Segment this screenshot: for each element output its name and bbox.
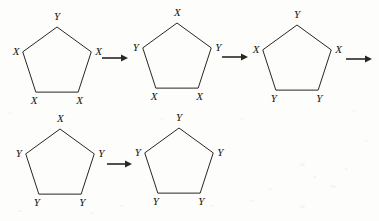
- arrow-3: [346, 55, 372, 62]
- vertex-label-top: Y: [54, 11, 60, 22]
- arrow-head-icon: [365, 55, 372, 62]
- vertex-label-left: Y: [135, 147, 141, 158]
- vertex-label-bottom-right: X: [76, 95, 83, 106]
- vertex-label-left: Y: [133, 42, 139, 53]
- arrow-head-icon: [241, 53, 248, 60]
- pentagon-outline: [263, 25, 331, 90]
- paper-speck: [268, 188, 272, 190]
- vertex-label-left: X: [13, 46, 20, 57]
- arrow-4: [107, 160, 132, 167]
- pentagon-outline: [26, 129, 94, 194]
- vertex-label-right: Y: [215, 42, 221, 53]
- vertex-label-bottom-right: Y: [198, 196, 204, 207]
- vertex-label-right: X: [335, 44, 342, 55]
- arrow-2: [222, 53, 248, 60]
- paper-speck: [8, 112, 12, 114]
- vertex-label-right: Y: [98, 148, 104, 159]
- vertex-label-bottom-left: X: [31, 95, 38, 106]
- pentagon-4: [26, 129, 94, 194]
- paper-speck: [300, 205, 305, 208]
- vertex-label-bottom-right: X: [196, 91, 203, 102]
- arrow-1: [102, 54, 128, 61]
- vertex-label-bottom-left: Y: [153, 196, 159, 207]
- vertex-label-left: X: [253, 44, 260, 55]
- pentagon-outline: [23, 27, 91, 92]
- pentagon-2: [143, 23, 211, 88]
- pentagon-1: [23, 27, 91, 92]
- vertex-label-top: Y: [294, 9, 300, 20]
- paper-speck: [313, 176, 317, 178]
- pentagon-outline: [145, 128, 213, 193]
- pentagon-3: [263, 25, 331, 90]
- vertex-label-bottom-right: Y: [316, 93, 322, 104]
- vertex-label-bottom-left: Y: [34, 197, 40, 208]
- vertex-label-bottom-right: Y: [79, 197, 85, 208]
- vertex-label-left: Y: [16, 148, 22, 159]
- vertex-label-bottom-left: X: [151, 91, 158, 102]
- vertex-label-right: Y: [217, 147, 223, 158]
- arrow-head-icon: [125, 160, 132, 167]
- paper-speck: [352, 110, 356, 112]
- arrow-head-icon: [121, 54, 128, 61]
- paper-speck: [345, 168, 348, 170]
- vertex-label-top: Y: [176, 112, 182, 123]
- paper-speck: [90, 212, 94, 214]
- paper-speck: [160, 118, 163, 120]
- pentagon-sequence-diagram: [0, 0, 379, 221]
- paper-speck: [18, 210, 23, 212]
- paper-speck: [120, 205, 124, 207]
- vertex-label-top: X: [174, 7, 181, 18]
- paper-speck: [240, 118, 244, 120]
- pentagon-outline: [143, 23, 211, 88]
- paper-speck: [300, 163, 305, 166]
- pentagon-5: [145, 128, 213, 193]
- paper-speck: [365, 140, 368, 142]
- paper-speck: [250, 200, 255, 202]
- vertex-label-bottom-left: Y: [271, 93, 277, 104]
- paper-speck: [330, 185, 336, 188]
- vertex-label-top: X: [57, 113, 64, 124]
- paper-speck: [210, 205, 215, 207]
- vertex-label-right: X: [95, 46, 102, 57]
